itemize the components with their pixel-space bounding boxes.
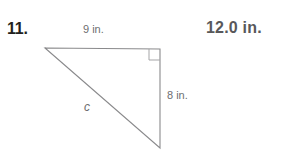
worksheet-problem: 11. 12.0 in. 9 in. 8 in. c [0, 0, 282, 166]
right-leg-label: 8 in. [167, 90, 188, 101]
top-leg-label: 9 in. [83, 24, 104, 35]
triangle-outline [45, 48, 160, 148]
right-angle-icon [149, 49, 160, 60]
hypotenuse-label: c [84, 101, 90, 113]
right-triangle-figure [0, 0, 282, 166]
